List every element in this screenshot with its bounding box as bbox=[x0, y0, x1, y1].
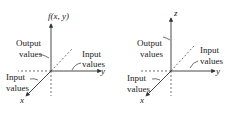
input-x-label-line2: values bbox=[6, 83, 29, 93]
right-diagram: z Output values Input values Input value… bbox=[127, 8, 223, 105]
output-label-line2: values bbox=[140, 49, 163, 59]
input-y-pointer bbox=[72, 63, 81, 70]
input-x-label-line2: values bbox=[127, 84, 150, 94]
left-diagram: f(x, y) Output values Input values Input… bbox=[6, 11, 105, 105]
output-label-line1: Output bbox=[16, 38, 42, 48]
output-label-line1: Output bbox=[137, 38, 163, 48]
y-axis-label: y bbox=[100, 66, 105, 76]
input-x-pointer bbox=[30, 79, 38, 80]
input-y-label-line2: values bbox=[200, 56, 223, 66]
x-axis-label: x bbox=[19, 95, 24, 105]
y-axis-label: y bbox=[215, 66, 220, 76]
diagrams-canvas: f(x, y) Output values Input values Input… bbox=[0, 0, 230, 114]
input-x-label-line1: Input bbox=[127, 73, 146, 83]
input-y-label-line1: Input bbox=[200, 45, 219, 55]
vertical-axis-label: f(x, y) bbox=[48, 11, 69, 21]
x-axis bbox=[26, 71, 51, 96]
x-axis-label: x bbox=[139, 95, 144, 105]
output-label-line2: values bbox=[19, 49, 42, 59]
input-x-pointer bbox=[152, 79, 160, 80]
output-pointer bbox=[163, 37, 170, 40]
vertical-axis-label: z bbox=[173, 8, 178, 18]
input-y-label-line1: Input bbox=[82, 49, 101, 59]
input-y-pointer bbox=[190, 61, 198, 68]
input-x-label-line1: Input bbox=[6, 72, 25, 82]
x-axis-neg bbox=[51, 48, 73, 71]
